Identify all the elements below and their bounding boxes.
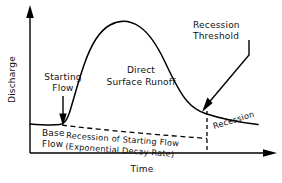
x-axis-label: Time <box>130 164 154 174</box>
hydrograph-svg: Discharge Time Starting Flow Direct Surf… <box>0 0 282 183</box>
direct-surface-runoff-line1: Direct <box>127 65 155 75</box>
y-axis <box>26 5 34 153</box>
recession-threshold-label: Recession Threshold <box>192 20 240 41</box>
recession-threshold-line1: Recession <box>193 20 240 30</box>
recession-threshold-line2: Threshold <box>192 31 239 41</box>
base-flow-line2: Flow <box>42 139 63 149</box>
recession-of-starting-flow-label: Recession of Starting Flow (Exponential … <box>65 130 179 159</box>
base-flow-label: Base Flow <box>42 128 65 149</box>
direct-surface-runoff-line2: Surface Runoff <box>106 77 176 87</box>
starting-flow-label-line1: Starting <box>44 72 82 82</box>
starting-flow-label-line2: Flow <box>52 83 73 93</box>
direct-surface-runoff-label: Direct Surface Runoff <box>106 65 176 87</box>
right-arrow-icon <box>263 149 277 157</box>
hydrograph-figure: Discharge Time Starting Flow Direct Surf… <box>0 0 282 183</box>
y-axis-label: Discharge <box>7 56 17 103</box>
recession-label: Recession <box>212 109 256 131</box>
up-arrow-icon <box>26 5 34 18</box>
base-flow-line1: Base <box>42 128 65 138</box>
recession-threshold-pointer <box>202 40 249 112</box>
